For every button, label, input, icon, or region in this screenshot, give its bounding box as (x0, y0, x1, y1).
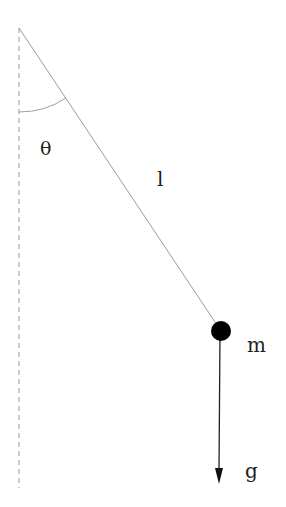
pendulum-bob (211, 321, 231, 341)
length-label: l (157, 167, 163, 191)
angle-arc (19, 98, 66, 112)
mass-label: m (247, 333, 266, 357)
pendulum-string (19, 28, 221, 331)
gravity-arrow-shaft (219, 331, 220, 472)
gravity-label: g (245, 459, 258, 483)
gravity-arrow-head-icon (215, 468, 223, 484)
pendulum-diagram: θ l m g (0, 0, 286, 507)
angle-label: θ (40, 137, 51, 159)
